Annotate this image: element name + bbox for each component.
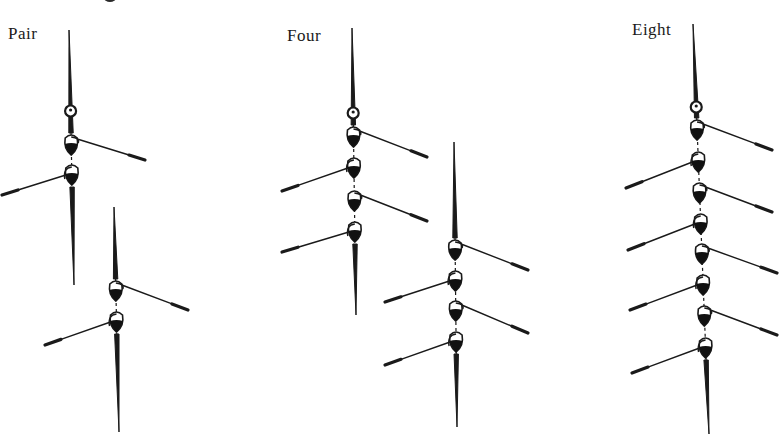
boat-four-2 (385, 142, 528, 427)
oar-shaft (461, 244, 512, 264)
oar-shaft (646, 285, 697, 304)
boat-eight-1 (626, 24, 777, 434)
rower-5-right (695, 244, 777, 273)
oar-shaft (710, 310, 761, 329)
rower-body-icon (348, 230, 361, 242)
oar-shaft (708, 248, 761, 267)
rower-body-icon (347, 166, 360, 178)
rower-3-right (449, 301, 528, 333)
rower-1-right (347, 127, 427, 157)
hull-stern (454, 354, 458, 427)
rower-1-right (691, 120, 772, 150)
label-pair: Pair (8, 25, 37, 42)
oar-blade (632, 367, 648, 373)
rower-body-icon (694, 222, 707, 234)
label-four: Four (287, 27, 321, 44)
rower-2-left (385, 271, 462, 302)
oar-blade (282, 185, 298, 191)
rower-body-icon (449, 248, 462, 260)
rower-body-icon (65, 173, 78, 185)
rower-4-left (385, 332, 463, 365)
oar-blade (512, 264, 528, 270)
oar-shaft (401, 281, 449, 297)
rower-8-left (632, 338, 712, 373)
boat-four-1 (282, 28, 427, 315)
rower-3-right (348, 191, 427, 221)
oar-blade (761, 329, 777, 335)
oar-blade (512, 326, 528, 333)
oar-shaft (706, 187, 756, 206)
oar-blade (761, 267, 777, 273)
rower-2-left (282, 158, 360, 191)
oar-shaft (298, 168, 348, 185)
rower-body-icon (691, 128, 704, 140)
hull-stern (353, 244, 357, 315)
oar-shaft (122, 285, 172, 304)
oar-blade (411, 151, 427, 157)
oar-blade (385, 297, 401, 302)
boat-pair-2 (45, 207, 188, 432)
rower-4-left (628, 214, 707, 250)
rower-body-icon (693, 191, 706, 203)
rower-2-left (626, 152, 705, 188)
rower-body-icon (450, 340, 463, 352)
oar-blade (756, 144, 772, 150)
oar-shaft (61, 322, 111, 339)
oar-shaft (298, 232, 349, 247)
rower-body-icon (449, 309, 462, 321)
oar-blade (630, 304, 646, 310)
rower-1-right (65, 135, 145, 160)
rower-body-icon (692, 160, 705, 172)
oar-shaft (644, 224, 695, 244)
rowing-boats-diagram: Pair Four Eight (0, 0, 783, 442)
oar-blade (411, 215, 427, 221)
oar-shaft (462, 305, 512, 326)
rower-body-icon (699, 346, 712, 358)
oar-blade (628, 244, 644, 250)
rower-1-right (109, 281, 188, 310)
oar-shaft (18, 175, 66, 190)
rower-body-icon (109, 289, 122, 301)
oar-blade (129, 155, 145, 160)
hull-stern (70, 187, 74, 285)
rower-body-icon (348, 199, 361, 211)
rower-body-icon (697, 283, 710, 295)
rower-body-icon (695, 252, 708, 264)
rower-7-right (698, 306, 777, 335)
oar-shaft (401, 342, 450, 359)
hull-bow (453, 142, 457, 238)
oar-blade (626, 182, 642, 188)
oar-blade (385, 359, 401, 365)
hull-stern (704, 360, 709, 434)
rower-body-icon (698, 314, 711, 326)
rower-2-left (45, 312, 123, 345)
rower-body-icon (347, 135, 360, 147)
rower-6-left (630, 275, 710, 310)
oar-blade (172, 304, 188, 310)
oar-blade (756, 206, 772, 212)
oar-blade (45, 339, 61, 345)
oar-shaft (359, 131, 411, 151)
oar-shaft (360, 195, 411, 215)
rower-body-icon (449, 279, 462, 291)
oar-shaft (642, 162, 692, 182)
hull-stern (115, 334, 119, 432)
oar-shaft (77, 139, 129, 155)
rower-body-icon (65, 143, 78, 155)
boats-illustration (0, 0, 783, 442)
label-eight: Eight (632, 21, 671, 38)
rower-2-left (2, 165, 78, 195)
hull-bow (113, 207, 117, 279)
rower-4-left (282, 222, 361, 252)
oar-blade (282, 247, 298, 252)
oar-shaft (703, 124, 756, 144)
rower-1-right (449, 240, 528, 270)
rower-3-right (693, 183, 772, 212)
oar-blade (2, 190, 18, 195)
rower-body-icon (110, 320, 123, 332)
oar-shaft (648, 348, 700, 367)
boat-pair-1 (2, 30, 145, 285)
